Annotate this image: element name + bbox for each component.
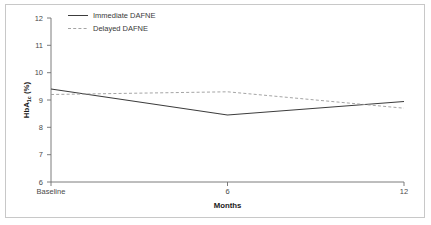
x-tick-label-baseline: Baseline [37,187,66,196]
y-tick-label-10: 10 [35,68,43,77]
svg-text:HbA1c (%): HbA1c (%) [22,81,32,118]
chart-legend: Immediate DAFNE Delayed DAFNE [68,11,156,33]
y-axis-ticks [47,18,51,182]
x-axis-title: Months [214,201,242,210]
series-line-immediate-dafne [51,89,404,115]
y-tick-label-11: 11 [35,41,43,50]
y-tick-label-12: 12 [35,14,43,23]
y-tick-label-7: 7 [39,150,43,159]
line-chart: 6 7 8 9 10 11 12 Baseline 6 12 Months Hb… [0,0,431,225]
x-tick-label-12: 12 [400,187,408,196]
y-tick-label-6: 6 [39,178,43,187]
y-axis-title: HbA1c (%) [22,81,32,118]
legend-label-delayed-dafne: Delayed DAFNE [93,24,148,33]
chart-figure: 6 7 8 9 10 11 12 Baseline 6 12 Months Hb… [0,0,431,225]
y-axis-title-main: HbA [22,102,31,118]
x-axis-ticks [51,182,404,186]
y-tick-label-8: 8 [39,123,43,132]
y-tick-label-9: 9 [39,96,43,105]
legend-label-immediate-dafne: Immediate DAFNE [93,11,156,20]
y-axis-title-unit: (%) [22,81,31,96]
x-tick-label-6: 6 [225,187,229,196]
